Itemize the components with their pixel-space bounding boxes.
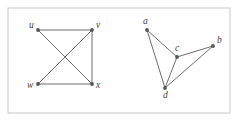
graph-vertex-label-b: b [217, 35, 222, 45]
graph-vertex-v [90, 28, 94, 32]
graph-vertex-x [90, 82, 94, 86]
graph-vertex-label-x: x [95, 80, 101, 90]
graph-vertex-b [211, 44, 215, 48]
graph-vertex-label-u: u [29, 20, 34, 30]
graph-canvas: uvwxabcd [0, 0, 239, 122]
graph-figure: uvwxabcd [0, 0, 239, 122]
graph-vertex-c [175, 55, 179, 59]
graph-vertex-label-d: d [163, 90, 168, 100]
graph-vertex-a [145, 28, 149, 32]
figure-background [0, 0, 239, 122]
graph-vertex-label-w: w [27, 80, 34, 90]
graph-vertex-u [36, 28, 40, 32]
graph-vertex-label-a: a [143, 16, 148, 26]
graph-vertex-w [36, 82, 40, 86]
